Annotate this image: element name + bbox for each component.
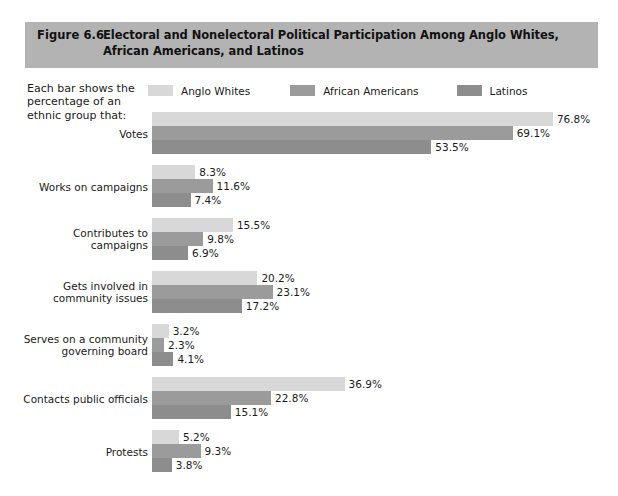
bar-row: 36.9% bbox=[152, 377, 382, 391]
bar bbox=[152, 405, 231, 419]
bar-group-label-line: community issues bbox=[53, 293, 148, 305]
bar-stack: 15.5%9.8%6.9% bbox=[152, 218, 270, 260]
bar-group: Works on campaigns8.3%11.6%7.4% bbox=[0, 165, 618, 208]
bar bbox=[152, 218, 233, 232]
bar-value-label: 9.8% bbox=[207, 233, 234, 245]
bar-row: 11.6% bbox=[152, 179, 250, 193]
bar-value-label: 5.2% bbox=[183, 431, 210, 443]
bar bbox=[152, 444, 201, 458]
bar-value-label: 69.1% bbox=[517, 127, 550, 139]
bar-group-label: Contacts public officials bbox=[23, 392, 148, 405]
bar-group: Protests5.2%9.3%3.8% bbox=[0, 430, 618, 473]
bar-stack: 20.2%23.1%17.2% bbox=[152, 271, 310, 313]
bar bbox=[152, 299, 242, 313]
bar-group-label-line: Votes bbox=[119, 127, 148, 139]
figure-number: Figure 6.6 bbox=[37, 28, 103, 42]
bar-row: 23.1% bbox=[152, 285, 310, 299]
bar bbox=[152, 246, 188, 260]
bar bbox=[152, 232, 203, 246]
bar-stack: 3.2%2.3%4.1% bbox=[152, 324, 204, 366]
legend-item: Anglo Whites bbox=[148, 85, 250, 97]
bar-value-label: 53.5% bbox=[435, 141, 468, 153]
bar-row: 3.2% bbox=[152, 324, 204, 338]
legend-label: African Americans bbox=[323, 85, 418, 97]
bar-stack: 76.8%69.1%53.5% bbox=[152, 112, 590, 154]
bar-row: 2.3% bbox=[152, 338, 204, 352]
bar-group-label-line: governing board bbox=[62, 346, 148, 358]
bar-row: 8.3% bbox=[152, 165, 250, 179]
bar-group-label-line: Gets involved in bbox=[63, 280, 148, 292]
bar-row: 22.8% bbox=[152, 391, 382, 405]
legend-item: African Americans bbox=[290, 85, 418, 97]
bar bbox=[152, 112, 553, 126]
bar-group: Contributes to campaigns15.5%9.8%6.9% bbox=[0, 218, 618, 261]
bar-value-label: 22.8% bbox=[275, 392, 308, 404]
bar-value-label: 4.1% bbox=[177, 353, 204, 365]
bar-row: 20.2% bbox=[152, 271, 310, 285]
bar-value-label: 8.3% bbox=[199, 166, 226, 178]
bar-value-label: 15.5% bbox=[237, 219, 270, 231]
bar-group-label: Protests bbox=[23, 445, 148, 458]
bar-group-label: Works on campaigns bbox=[23, 180, 148, 193]
bar-group-label: Votes bbox=[23, 127, 148, 140]
bar-group: Votes76.8%69.1%53.5% bbox=[0, 112, 618, 155]
chart-plot-area: Votes76.8%69.1%53.5%Works on campaigns8.… bbox=[0, 112, 618, 483]
bar-row: 15.5% bbox=[152, 218, 270, 232]
bar-group-label-line: Contributes to campaigns bbox=[73, 227, 148, 252]
legend-swatch-icon bbox=[457, 85, 482, 96]
bar-stack: 5.2%9.3%3.8% bbox=[152, 430, 231, 472]
bar-value-label: 20.2% bbox=[261, 272, 294, 284]
bar bbox=[152, 458, 172, 472]
bar bbox=[152, 193, 191, 207]
bar bbox=[152, 285, 273, 299]
bar-row: 6.9% bbox=[152, 246, 270, 260]
bar-row: 15.1% bbox=[152, 405, 382, 419]
bar-value-label: 17.2% bbox=[246, 300, 279, 312]
bar-value-label: 76.8% bbox=[557, 113, 590, 125]
bar-row: 9.8% bbox=[152, 232, 270, 246]
bar-value-label: 3.2% bbox=[173, 325, 200, 337]
bar bbox=[152, 338, 164, 352]
bar-stack: 36.9%22.8%15.1% bbox=[152, 377, 382, 419]
bar bbox=[152, 352, 173, 366]
bar-row: 4.1% bbox=[152, 352, 204, 366]
bar-group-label: Gets involved incommunity issues bbox=[23, 280, 148, 305]
bar-group: Contacts public officials36.9%22.8%15.1% bbox=[0, 377, 618, 420]
legend-swatch-icon bbox=[148, 85, 173, 96]
bar-row: 69.1% bbox=[152, 126, 590, 140]
bar-row: 3.8% bbox=[152, 458, 231, 472]
legend-swatch-icon bbox=[290, 85, 315, 96]
bar-row: 9.3% bbox=[152, 444, 231, 458]
bar bbox=[152, 271, 257, 285]
bar bbox=[152, 165, 195, 179]
bar-value-label: 7.4% bbox=[195, 194, 222, 206]
bar-value-label: 11.6% bbox=[217, 180, 250, 192]
bar-value-label: 3.8% bbox=[176, 459, 203, 471]
bar-group-label: Serves on a communitygoverning board bbox=[23, 333, 148, 358]
legend-label: Anglo Whites bbox=[181, 85, 250, 97]
legend-label: Latinos bbox=[490, 85, 528, 97]
bar-group-label: Contributes to campaigns bbox=[23, 227, 148, 252]
bar-group-label-line: Contacts public officials bbox=[23, 392, 148, 404]
bar bbox=[152, 391, 271, 405]
bar bbox=[152, 324, 169, 338]
bar-group: Serves on a communitygoverning board3.2%… bbox=[0, 324, 618, 367]
bar-row: 17.2% bbox=[152, 299, 310, 313]
bar-stack: 8.3%11.6%7.4% bbox=[152, 165, 250, 207]
figure-header-band: Figure 6.6 Electoral and Nonelectoral Po… bbox=[25, 22, 598, 68]
bar-value-label: 6.9% bbox=[192, 247, 219, 259]
bar-group-label-line: Works on campaigns bbox=[39, 180, 148, 192]
bar-row: 7.4% bbox=[152, 193, 250, 207]
bar bbox=[152, 126, 513, 140]
bar bbox=[152, 179, 213, 193]
bar-group-label-line: Serves on a community bbox=[24, 333, 148, 345]
bar bbox=[152, 377, 345, 391]
bar-row: 5.2% bbox=[152, 430, 231, 444]
chart-legend: Anglo WhitesAfrican AmericansLatinos bbox=[148, 84, 553, 97]
bar-value-label: 9.3% bbox=[205, 445, 232, 457]
figure-title: Electoral and Nonelectoral Political Par… bbox=[103, 28, 588, 59]
bar-row: 53.5% bbox=[152, 140, 590, 154]
bar-group-label-line: Protests bbox=[106, 445, 148, 457]
bar-value-label: 36.9% bbox=[349, 378, 382, 390]
bar bbox=[152, 430, 179, 444]
